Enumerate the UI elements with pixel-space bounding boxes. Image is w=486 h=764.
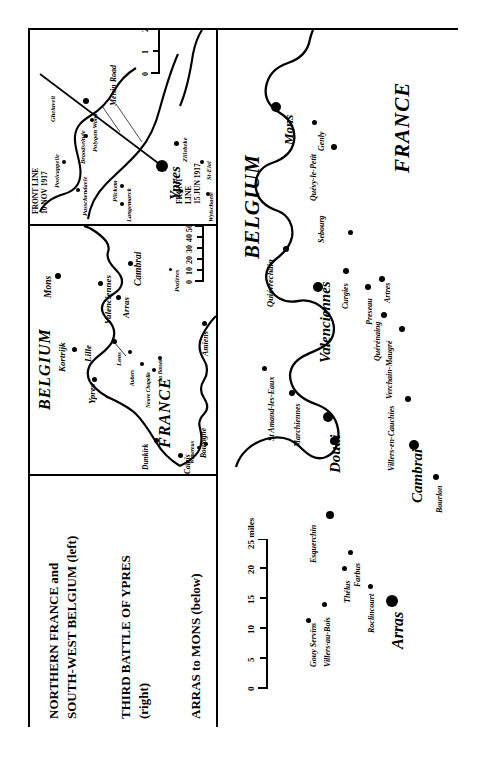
place-label-poelcappelle: Poelcappelle bbox=[54, 154, 61, 188]
caption-panel: NORTHERN FRANCE and SOUTH-WEST BELGIUM (… bbox=[30, 476, 216, 729]
place-label-kortrijk: Kortrijk bbox=[58, 342, 67, 372]
place-label-st-amand: St Amand-les-Eaux bbox=[268, 377, 276, 441]
caption-line-3: THIRD BATTLE OF YPRES bbox=[118, 555, 134, 719]
caption-line-4: (right) bbox=[136, 683, 152, 719]
country-label-belgium: BELGIUM bbox=[36, 328, 54, 410]
place-label-neuve-chapelle: Neuve Chapelle bbox=[146, 372, 152, 408]
place-label-valenciennes: Valenciennes bbox=[318, 281, 333, 363]
scale-tick-1: 1 bbox=[141, 50, 150, 54]
country-label-belgium: BELGIUM bbox=[240, 154, 265, 259]
place-label-gheluvelt: Gheluvelt bbox=[50, 96, 57, 122]
place-label-cambrai: Cambrai bbox=[134, 252, 144, 286]
place-dot-artres bbox=[379, 276, 385, 282]
place-label-polygon-wood: Polygon Wood bbox=[92, 113, 99, 152]
place-label-arras: Arras bbox=[390, 612, 406, 649]
place-dot-aubers bbox=[140, 362, 144, 366]
place-label-dunkirk: Dunkirk bbox=[142, 444, 150, 470]
place-dot-douai-sub bbox=[330, 437, 338, 445]
scale-tick-0: 0 bbox=[246, 687, 256, 692]
place-dot-langemarck bbox=[120, 202, 124, 206]
place-label-wimereux: Wimereux bbox=[190, 441, 196, 464]
scale-tick-40: 40 bbox=[185, 234, 194, 242]
place-label-farbus: Farbus bbox=[354, 563, 362, 587]
place-dot-gheluvelt bbox=[83, 98, 89, 104]
place-label-cambrai: Cambrai bbox=[410, 449, 425, 503]
place-label-aubers: Aubers bbox=[130, 370, 136, 386]
place-label-ypres: Ypres bbox=[168, 166, 183, 200]
front-line-1917-jun-label-b: LINE bbox=[185, 186, 193, 204]
place-dot-esquerchin bbox=[326, 511, 334, 519]
place-dot-bourlon bbox=[433, 474, 439, 480]
place-dot-querenaing bbox=[381, 312, 387, 318]
place-dot-marchiennes bbox=[289, 390, 295, 396]
caption-line-2: SOUTH-WEST BELGIUM (left) bbox=[64, 536, 80, 719]
scale-unit-arras-mons: 25 miles bbox=[246, 518, 256, 549]
place-dot-mons bbox=[271, 102, 281, 112]
place-dot-passchendaele bbox=[76, 188, 80, 192]
place-dot-arras bbox=[386, 595, 398, 607]
place-label-pozieres: Pozières bbox=[174, 270, 181, 292]
place-dot-mons bbox=[55, 273, 61, 279]
scale-tick-0: 0 bbox=[185, 280, 194, 284]
place-dot-loos bbox=[128, 350, 132, 354]
place-label-valenciennes: Valenciennes bbox=[104, 275, 113, 324]
front-line-1917-jun-date: 15 JUN 1917 bbox=[194, 163, 202, 204]
place-dot-quevy-le-petit bbox=[331, 144, 337, 150]
scale-unit-north-france: 50 miles bbox=[185, 226, 194, 232]
place-label-ypres: Ypres bbox=[88, 384, 97, 404]
scale-tick-15: 15 bbox=[246, 595, 256, 604]
place-dot-verchain-maugre bbox=[399, 326, 405, 332]
place-label-gouy-servins: Gouy Servins bbox=[310, 623, 318, 667]
menin-road-label: Menin Road bbox=[110, 65, 118, 106]
caption-line-1: NORTHERN FRANCE and bbox=[46, 563, 62, 719]
scale-tick-2: 2 bbox=[141, 30, 150, 32]
place-label-esquerchin: Esquerchin bbox=[310, 525, 318, 563]
place-label-quievrechain: Quiévrechain bbox=[266, 259, 275, 307]
place-label-bourlon: Bourlon bbox=[436, 485, 444, 513]
place-label-villers-au-bois: Villers-au-Bois bbox=[324, 617, 332, 667]
map-panel-northern-france: BELGIUM FRANCE Dunkirk Calais Wimereux B… bbox=[30, 226, 216, 474]
place-label-passchendaele: Passchendaele bbox=[82, 177, 89, 216]
place-dot-quievrechain bbox=[283, 246, 289, 252]
country-label-france: FRANCE bbox=[156, 377, 174, 448]
place-dot-curgies bbox=[343, 268, 349, 274]
caption-line-5: ARRAS to MONS (below) bbox=[188, 573, 204, 719]
place-dot-villers-en-cauchies bbox=[405, 396, 411, 402]
place-label-broodseinde: Broodseinde bbox=[80, 130, 87, 164]
place-label-langemarck: Langemarck bbox=[126, 188, 133, 222]
place-label-quevy-le-petit: Quévy-le-Petit bbox=[310, 154, 318, 201]
place-label-pilckem: Pilckem bbox=[112, 180, 119, 202]
place-label-genly: Genly bbox=[318, 131, 326, 151]
map-panel-ypres: FRONT LINE 10 NOV 1917 FRONT LINE 15 JUN… bbox=[30, 30, 216, 224]
place-label-arras: Arras bbox=[122, 297, 131, 318]
place-label-loos: Loos bbox=[116, 352, 123, 366]
place-label-artres: Artres bbox=[384, 283, 392, 303]
figure-frame: FRONT LINE 10 NOV 1917 FRONT LINE 15 JUN… bbox=[28, 28, 458, 727]
scale-tick-20: 20 bbox=[246, 565, 256, 574]
place-label-villers-en-cauchies: Villers-en-Cauchies bbox=[388, 406, 396, 471]
front-line-1917-nov-label: FRONT LINE bbox=[32, 168, 40, 214]
place-label-querenaing: Quérénaing bbox=[374, 321, 382, 361]
place-dot-douai bbox=[323, 412, 333, 422]
place-label-zillebeke: Zillebeke bbox=[182, 137, 189, 162]
place-label-thelus: Thélus bbox=[344, 580, 352, 603]
place-label-boulogne: Boulogne bbox=[200, 428, 208, 458]
place-label-verchain-maugre: Verchain-Maugré bbox=[386, 340, 394, 399]
place-label-roclincourt: Roclincourt bbox=[368, 594, 376, 633]
scale-tick-30: 30 bbox=[185, 245, 194, 253]
place-label-st-eloi: St-Eloi bbox=[206, 161, 213, 180]
place-label-curgies: Curgies bbox=[342, 283, 350, 309]
place-dot-pilckem bbox=[120, 184, 124, 188]
place-dot-poelcappelle bbox=[62, 160, 66, 164]
front-line-1917-nov-date: 10 NOV 1917 bbox=[41, 171, 49, 214]
place-dot-st-eloi bbox=[200, 160, 204, 164]
scale-tick-10: 10 bbox=[246, 625, 256, 634]
place-label-lille: Lille bbox=[84, 345, 93, 362]
map-panel-arras-to-mons: BELGIUM FRANCE Mons Genly Quévy-le-Petit… bbox=[218, 30, 460, 729]
place-label-amiens: Amiens bbox=[202, 331, 210, 356]
scale-tick-20: 20 bbox=[185, 256, 194, 264]
place-label-la-bassee: La Bassée bbox=[158, 359, 164, 382]
place-dot-preseau bbox=[365, 284, 371, 290]
scale-tick-5: 5 bbox=[246, 658, 256, 663]
place-label-mons: Mons bbox=[44, 276, 54, 298]
